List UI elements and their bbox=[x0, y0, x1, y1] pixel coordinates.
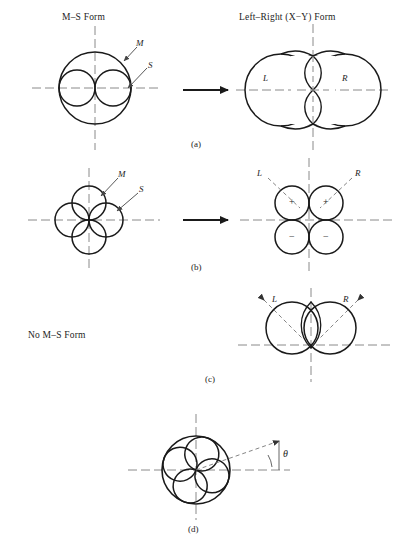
row-d-group bbox=[128, 414, 290, 520]
label-no-ms-form: No M–S Form bbox=[28, 330, 86, 340]
label-R-c: R bbox=[343, 294, 349, 304]
label-M-a: M bbox=[136, 38, 144, 48]
label-M-b: M bbox=[118, 169, 126, 179]
theta-ray-d bbox=[196, 441, 279, 470]
sign-minus-bottom-right-b: − bbox=[323, 231, 329, 242]
label-L-c: L bbox=[272, 294, 277, 304]
diagram-svg bbox=[0, 0, 397, 545]
theta-arc-d bbox=[268, 455, 272, 467]
figure-canvas: M–S Form Left–Right (X−Y) Form bbox=[0, 0, 397, 545]
leader-S-a bbox=[128, 68, 147, 88]
header-left-right-form: Left–Right (X−Y) Form bbox=[239, 12, 336, 22]
row-c-right-group bbox=[238, 288, 390, 382]
label-L-a: L bbox=[263, 73, 268, 83]
leader-S-b bbox=[117, 193, 138, 211]
label-R-a: R bbox=[342, 73, 348, 83]
label-theta-d: θ bbox=[283, 448, 288, 459]
circle-R-c bbox=[304, 302, 356, 354]
subfigure-label-d: (d) bbox=[188, 524, 199, 534]
subfigure-label-c: (c) bbox=[205, 374, 215, 384]
sign-plus-top-left-b: + bbox=[289, 196, 295, 207]
arrow-L-c bbox=[264, 300, 302, 338]
header-ms-form: M–S Form bbox=[62, 12, 105, 22]
label-S-a: S bbox=[148, 60, 153, 70]
circle-L-c bbox=[266, 302, 318, 354]
label-L-b: L bbox=[257, 168, 262, 178]
row-a-right-group bbox=[236, 24, 392, 152]
leader-M-b bbox=[101, 178, 118, 196]
label-R-b: R bbox=[355, 168, 361, 178]
leader-M-a bbox=[124, 47, 137, 61]
row-b-right-group bbox=[240, 158, 392, 272]
subfigure-label-b: (b) bbox=[191, 262, 202, 272]
arrow-R-c bbox=[320, 300, 358, 338]
leader-L-b bbox=[268, 178, 300, 208]
label-S-b: S bbox=[139, 184, 144, 194]
sign-plus-top-right-b: + bbox=[323, 196, 329, 207]
sign-minus-bottom-left-b: − bbox=[289, 231, 295, 242]
subfigure-label-a: (a) bbox=[191, 139, 201, 149]
